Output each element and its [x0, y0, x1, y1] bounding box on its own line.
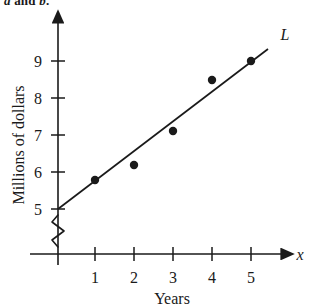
exercise-caption: a and b.	[4, 0, 49, 9]
y-tick-label-9: 9	[34, 53, 42, 70]
scatter-plot-figure: a and b. 9 8 7 6 5	[0, 0, 322, 307]
data-point-2	[130, 161, 138, 169]
caption-variable-a: a	[4, 0, 11, 8]
x-axis-title: Years	[154, 290, 190, 307]
x-tick-label-5: 5	[247, 269, 255, 286]
x-tick-label-2: 2	[130, 269, 138, 286]
y-tick-label-5: 5	[34, 201, 42, 218]
chart-svg: 9 8 7 6 5 1 2 3 4 5 x Years Millions of …	[0, 0, 322, 307]
y-tick-label-8: 8	[34, 90, 42, 107]
caption-conjunction: and	[11, 0, 39, 8]
data-point-5	[247, 57, 255, 65]
x-tick-label-3: 3	[169, 269, 177, 286]
fitted-line-L	[58, 49, 268, 209]
x-tick-label-1: 1	[91, 269, 99, 286]
data-point-1	[91, 176, 99, 184]
line-label-L: L	[280, 26, 290, 43]
x-axis-variable-label: x	[295, 246, 303, 263]
y-tick-label-7: 7	[34, 127, 42, 144]
caption-variable-b: b	[39, 0, 46, 8]
caption-period: .	[46, 0, 49, 8]
y-axis-title: Millions of dollars	[10, 85, 27, 204]
y-tick-label-6: 6	[34, 164, 42, 181]
x-tick-label-4: 4	[208, 269, 216, 286]
data-point-3	[169, 127, 177, 135]
data-point-4	[208, 76, 216, 84]
